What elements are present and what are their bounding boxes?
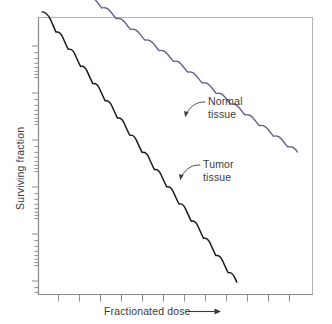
tumor-tissue-label-line1: Tumor [203, 158, 234, 170]
series-normal-tissue [42, 0, 298, 152]
y-axis-title: Surviving fraction [14, 127, 26, 210]
normal-tissue-label-line1: Normal [208, 95, 243, 107]
figure-container: Normal tissue Tumor tissue Fractionated … [0, 0, 332, 324]
x-axis-title: Fractionated dose [104, 305, 191, 317]
normal-tissue-curve [42, 0, 298, 152]
x-axis [39, 295, 313, 302]
normal-tissue-leader-arrowhead [184, 111, 189, 117]
annotation-normal-tissue: Normal tissue [184, 95, 243, 120]
normal-tissue-label-line2: tissue [208, 108, 236, 120]
y-axis-ticks [32, 46, 39, 292]
chart-canvas: Normal tissue Tumor tissue Fractionated … [0, 0, 332, 324]
y-axis-title-group: Surviving fraction [14, 127, 26, 210]
plot-border [39, 18, 313, 295]
x-axis-ticks [59, 295, 290, 302]
tumor-tissue-curve [42, 12, 237, 282]
tumor-tissue-label-line2: tissue [203, 171, 231, 183]
series-tumor-tissue [42, 12, 237, 282]
tumor-tissue-leader-line [182, 165, 201, 177]
normal-tissue-leader-line [187, 102, 206, 114]
tumor-tissue-leader-arrowhead [179, 174, 184, 180]
y-axis [32, 18, 39, 295]
annotation-tumor-tissue: Tumor tissue [179, 158, 234, 183]
x-axis-title-arrow-icon [186, 309, 221, 315]
plot-frame [39, 18, 313, 295]
x-axis-title-group: Fractionated dose [104, 305, 221, 317]
